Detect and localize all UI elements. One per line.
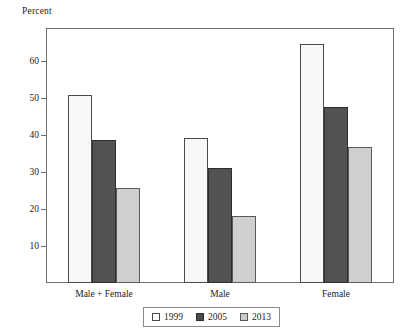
chart-legend: 199920052013 (143, 307, 280, 327)
y-tick-mark (41, 209, 47, 210)
bar-male-2005 (208, 168, 232, 283)
bar-group (68, 28, 140, 283)
legend-swatch-2005 (196, 313, 204, 321)
y-axis-caption: Percent (22, 6, 52, 16)
legend-swatch-2013 (240, 313, 248, 321)
y-tick-label: 10 (30, 241, 40, 251)
bar-group (184, 28, 256, 283)
plot-area: 102030405060 (46, 28, 394, 283)
legend-label-2013: 2013 (252, 312, 271, 322)
bar-male-female-1999 (68, 95, 92, 283)
bar-male-2013 (232, 216, 256, 283)
legend-item-2013: 2013 (240, 312, 271, 322)
bar-group (300, 28, 372, 283)
category-label-male-female: Male + Female (75, 289, 133, 299)
y-tick-label: 60 (30, 56, 40, 66)
y-tick-mark (41, 98, 47, 99)
bar-female-2013 (348, 147, 372, 283)
bar-male-1999 (184, 138, 208, 283)
y-tick-mark (41, 135, 47, 136)
bar-chart: Percent 102030405060 Male + FemaleMaleFe… (0, 0, 408, 336)
category-label-male: Male (210, 289, 230, 299)
y-tick-label: 20 (30, 204, 40, 214)
legend-label-1999: 1999 (164, 312, 183, 322)
y-tick-mark (41, 172, 47, 173)
bar-male-female-2005 (92, 140, 116, 283)
bar-female-1999 (300, 44, 324, 283)
bar-male-female-2013 (116, 188, 140, 283)
legend-swatch-1999 (152, 313, 160, 321)
legend-item-2005: 2005 (196, 312, 227, 322)
y-tick-mark (41, 61, 47, 62)
y-tick-label: 30 (30, 167, 40, 177)
legend-label-2005: 2005 (208, 312, 227, 322)
bar-female-2005 (324, 107, 348, 283)
category-label-female: Female (322, 289, 350, 299)
legend-item-1999: 1999 (152, 312, 183, 322)
y-tick-mark (41, 246, 47, 247)
y-tick-label: 40 (30, 130, 40, 140)
y-tick-label: 50 (30, 93, 40, 103)
